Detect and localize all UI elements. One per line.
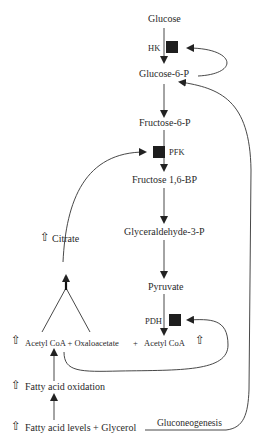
up-arrow-icon: ⇧ [11, 334, 21, 346]
pfk-enzyme-box [153, 146, 165, 158]
glucose-node: Glucose [148, 13, 181, 25]
pfk-label: PFK [169, 146, 185, 158]
glycolysis-regulation-diagram: HK PFK PDH Glucose Glucose-6-P Fructose-… [0, 0, 264, 448]
glucose-6-phosphate-node: Glucose-6-P [139, 68, 189, 80]
fructose-1-6-bisphosphate-node: Fructose 1,6-BP [132, 174, 197, 186]
plus-sign: + [133, 337, 138, 349]
up-arrow-icon: ⇧ [11, 379, 21, 391]
fructose-6-phosphate-node: Fructose-6-P [139, 117, 191, 129]
glyceraldehyde-3-phosphate-node: Glyceraldehyde-3-P [124, 226, 205, 238]
acetyl-coa-node: Acetyl CoA [144, 337, 185, 349]
up-arrow-icon: ⇧ [40, 231, 50, 243]
acetyl-coa-oxaloacetate-node: Acetyl CoA + Oxaloacetate [25, 337, 119, 349]
gluconeogenesis-label: Gluconeogenesis [157, 417, 222, 429]
fatty-acid-oxidation-node: Fatty acid oxidation [25, 381, 105, 393]
up-arrow-icon: ⇧ [195, 334, 205, 346]
pdh-label: PDH [145, 315, 162, 327]
hk-label: HK [148, 42, 160, 54]
pdh-enzyme-box [169, 314, 181, 326]
up-arrow-icon: ⇧ [11, 420, 21, 432]
citrate-node: Citrate [52, 233, 79, 245]
fatty-acid-levels-glycerol-node: Fatty acid levels + Glycerol [25, 422, 136, 434]
hk-enzyme-box [166, 41, 178, 53]
pyruvate-node: Pyruvate [148, 281, 184, 293]
